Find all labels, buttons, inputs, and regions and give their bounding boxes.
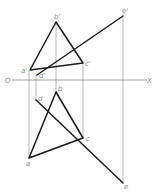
label-b: b	[58, 85, 63, 93]
label-b-prime: b'	[54, 13, 60, 21]
projection-lines	[29, 16, 123, 183]
triangle-abc-elevation	[30, 22, 83, 70]
label-d: d	[38, 95, 43, 103]
label-c-prime: c'	[85, 60, 91, 68]
label-e: e	[124, 183, 128, 191]
label-c: c	[86, 135, 90, 143]
plan-view: b a c d e	[26, 85, 128, 191]
elevation-view: b' a' c' d' e'	[21, 7, 128, 80]
line-de-plan	[36, 100, 123, 183]
label-e-prime: e'	[122, 7, 128, 15]
projection-diagram: O X b' a' c' d' e' b a c d e	[0, 0, 155, 192]
label-a: a	[26, 160, 30, 168]
line-de-elevation	[37, 16, 123, 75]
axis-origin-label: O	[5, 77, 11, 85]
label-a-prime: a'	[21, 67, 27, 75]
axis-end-label: X	[146, 77, 152, 85]
label-d-prime: d'	[39, 72, 45, 80]
